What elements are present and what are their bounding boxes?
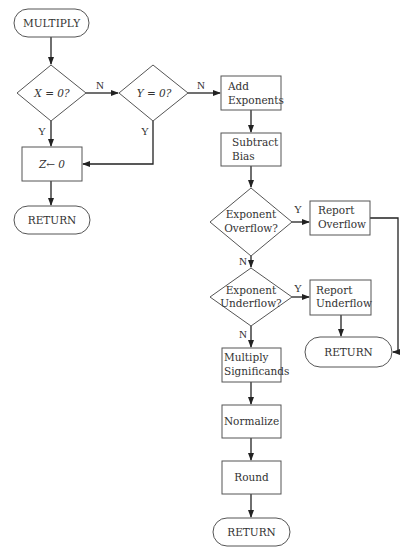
node-exponent-underflow: Exponent Underflow? [210, 268, 292, 326]
flowchart: N Y N Y Y N Y N MULTIPLY X = 0? Y = 0? Z… [0, 0, 413, 554]
edge-label-underflow-no: N [239, 328, 247, 340]
edge-label-y-no: N [197, 79, 205, 91]
edge-label-y-yes: Y [141, 125, 149, 137]
node-label: RETURN [324, 346, 373, 358]
node-label: Y = 0? [137, 87, 172, 99]
node-return-left: RETURN [14, 206, 90, 234]
node-label: Round [234, 471, 269, 483]
node-label: RETURN [227, 526, 276, 538]
node-label-line1: Exponent [226, 208, 277, 220]
node-add-exponents: Add Exponents [221, 76, 284, 110]
node-round: Round [222, 461, 281, 494]
node-report-overflow: Report Overflow [310, 201, 370, 235]
node-label-line1: Add [227, 80, 249, 92]
node-label-line2: Significands [224, 365, 289, 377]
node-label-line1: Exponent [226, 284, 277, 296]
node-label-line2: Overflow? [224, 222, 278, 234]
node-x-zero: X = 0? [17, 65, 86, 121]
node-label-line2: Underflow? [220, 297, 282, 309]
node-multiply-significands: Multiply Significands [222, 348, 289, 382]
node-label-line2: Bias [232, 150, 255, 162]
node-subtract-bias: Subtract Bias [221, 133, 281, 166]
node-exponent-overflow: Exponent Overflow? [210, 188, 292, 256]
node-label-line1: Subtract [232, 136, 279, 148]
node-normalize: Normalize [222, 405, 281, 438]
node-label: Normalize [224, 415, 279, 427]
node-z-zero: Z← 0 [22, 147, 82, 181]
node-label: RETURN [28, 214, 77, 226]
node-label-line2: Overflow [318, 218, 366, 230]
node-label-line1: Multiply [224, 351, 269, 363]
edge-label-x-yes: Y [38, 125, 46, 137]
edge-report-overflow-to-return [370, 218, 398, 352]
node-label-line1: Report [318, 204, 355, 216]
node-label: X = 0? [33, 87, 70, 99]
node-label: Z← 0 [38, 158, 65, 170]
node-label-line2: Exponents [228, 94, 284, 106]
node-label-line2: Underflow [316, 297, 372, 309]
node-y-zero: Y = 0? [119, 65, 188, 121]
edge-label-underflow-yes: Y [294, 282, 302, 294]
edge-label-x-no: N [96, 79, 104, 91]
node-report-underflow: Report Underflow [310, 280, 372, 315]
edge-label-overflow-yes: Y [294, 203, 302, 215]
node-label: MULTIPLY [23, 17, 81, 29]
node-label-line1: Report [316, 284, 353, 296]
node-start: MULTIPLY [14, 9, 89, 37]
node-return-bottom: RETURN [213, 518, 290, 546]
node-return-right: RETURN [305, 337, 392, 367]
edge-label-overflow-no: N [239, 255, 247, 267]
